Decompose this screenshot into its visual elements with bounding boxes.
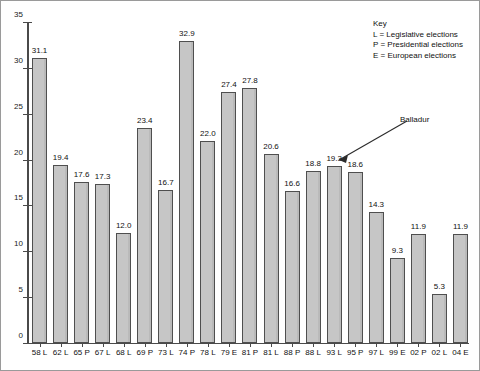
x-axis-tick-mark <box>145 343 146 347</box>
bar[interactable] <box>95 184 110 343</box>
x-axis-tick-label: 04 E <box>452 349 468 357</box>
x-axis-tick-mark <box>418 343 419 347</box>
bar[interactable] <box>306 171 321 343</box>
x-axis-tick-label: 74 P <box>179 349 195 357</box>
bar[interactable] <box>432 294 447 343</box>
x-axis-tick-mark <box>229 343 230 347</box>
bar-value-label: 5.3 <box>434 283 445 291</box>
x-axis-tick-label: 88 P <box>284 349 300 357</box>
bar[interactable] <box>116 233 131 343</box>
x-axis-tick-mark <box>292 343 293 347</box>
bar-value-label: 16.7 <box>158 179 174 187</box>
chart-frame: 05101520253035 31.158 L19.462 L17.665 P1… <box>0 0 480 371</box>
x-axis-tick-mark <box>103 343 104 347</box>
bar[interactable] <box>390 258 405 343</box>
bar-value-label: 16.6 <box>284 180 300 188</box>
x-axis-tick-mark <box>40 343 41 347</box>
bar-value-label: 31.1 <box>32 47 48 55</box>
x-axis-tick-mark <box>166 343 167 347</box>
legend-title: Key <box>373 19 463 30</box>
bar[interactable] <box>137 128 152 343</box>
y-axis-tick-label: 15 <box>14 194 23 202</box>
bar-value-label: 9.3 <box>392 247 403 255</box>
bar[interactable] <box>32 58 47 343</box>
y-axis-tick-label: 10 <box>14 240 23 248</box>
x-axis-tick-label: 69 P <box>137 349 153 357</box>
x-axis-tick-label: 93 L <box>326 349 342 357</box>
y-axis-tick-label: 20 <box>14 149 23 157</box>
bar-series: 31.158 L19.462 L17.665 P17.367 L12.068 L… <box>29 23 475 343</box>
bar-value-label: 12.0 <box>116 222 132 230</box>
y-axis-tick-label: 25 <box>14 103 23 111</box>
y-axis-tick-mark <box>23 343 32 344</box>
bar[interactable] <box>327 166 342 343</box>
x-axis-tick-label: 88 L <box>305 349 321 357</box>
x-axis-tick-label: 58 L <box>32 349 48 357</box>
x-axis-tick-mark <box>82 343 83 347</box>
x-axis-tick-mark <box>208 343 209 347</box>
x-axis-tick-label: 65 P <box>73 349 89 357</box>
legend-entry-presidential: P = Presidential elections <box>373 40 463 51</box>
x-axis-tick-mark <box>439 343 440 347</box>
x-axis-tick-label: 97 L <box>368 349 384 357</box>
x-axis-tick-mark <box>355 343 356 347</box>
bar[interactable] <box>179 41 194 343</box>
x-axis-tick-mark <box>187 343 188 347</box>
y-axis-tick-label: 35 <box>14 11 23 19</box>
bar[interactable] <box>453 234 468 343</box>
x-axis-tick-mark <box>124 343 125 347</box>
bar[interactable] <box>242 88 257 343</box>
bar-value-label: 32.9 <box>179 30 195 38</box>
plot-area: 05101520253035 31.158 L19.462 L17.665 P1… <box>27 23 475 344</box>
x-axis-line <box>27 343 469 344</box>
x-axis-tick-label: 02 P <box>410 349 426 357</box>
bar-value-label: 18.8 <box>305 160 321 168</box>
x-axis-tick-label: 67 L <box>95 349 111 357</box>
bar-value-label: 19.4 <box>53 154 69 162</box>
y-axis-tick-label: 0 <box>19 332 23 340</box>
x-axis-tick-mark <box>376 343 377 347</box>
x-axis-tick-label: 81 L <box>263 349 279 357</box>
legend-entry-european: E = European elections <box>373 51 463 62</box>
bar[interactable] <box>348 172 363 343</box>
bar[interactable] <box>411 234 426 343</box>
bar[interactable] <box>158 190 173 343</box>
x-axis-tick-label: 73 L <box>158 349 174 357</box>
bar[interactable] <box>221 92 236 343</box>
x-axis-tick-mark <box>61 343 62 347</box>
x-axis-tick-label: 79 E <box>221 349 237 357</box>
x-axis-tick-label: 78 L <box>200 349 216 357</box>
bar[interactable] <box>285 191 300 343</box>
bar-value-label: 20.6 <box>263 143 279 151</box>
bar[interactable] <box>200 141 215 343</box>
x-axis-tick-label: 99 E <box>389 349 405 357</box>
bar[interactable] <box>74 182 89 343</box>
x-axis-tick-label: 62 L <box>53 349 69 357</box>
legend-key: Key L = Legislative elections P = Presid… <box>373 19 463 61</box>
x-axis-tick-mark <box>250 343 251 347</box>
bar[interactable] <box>53 165 68 343</box>
bar[interactable] <box>369 212 384 343</box>
bar-value-label: 11.9 <box>411 223 426 231</box>
bar-value-label: 11.9 <box>453 223 468 231</box>
bar-value-label: 14.3 <box>368 201 384 209</box>
bar-value-label: 22.0 <box>200 130 216 138</box>
x-axis-tick-label: 95 P <box>347 349 363 357</box>
bar-value-label: 23.4 <box>137 117 153 125</box>
bar[interactable] <box>264 154 279 343</box>
x-axis-tick-label: 68 L <box>116 349 132 357</box>
x-axis-tick-mark <box>334 343 335 347</box>
x-axis-tick-label: 81 P <box>242 349 258 357</box>
y-axis-tick-label: 5 <box>19 286 23 294</box>
x-axis-tick-mark <box>313 343 314 347</box>
x-axis-tick-mark <box>271 343 272 347</box>
bar-value-label: 17.3 <box>95 173 111 181</box>
bar-value-label: 17.6 <box>74 171 90 179</box>
x-axis-tick-mark <box>460 343 461 347</box>
bar-value-label: 27.4 <box>221 81 237 89</box>
x-axis-tick-label: 02 L <box>432 349 448 357</box>
legend-entry-legislative: L = Legislative elections <box>373 30 463 41</box>
annotation-arrow-icon <box>331 119 411 167</box>
bar-value-label: 27.8 <box>242 77 258 85</box>
x-axis-tick-mark <box>397 343 398 347</box>
